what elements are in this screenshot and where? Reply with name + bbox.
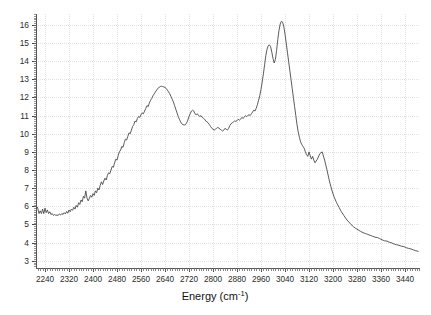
y-tick-label: 14 [20,56,30,66]
y-tick-label: 12 [20,92,30,102]
x-tick-label: 2720 [180,275,199,284]
x-tick-label: 3280 [348,275,367,284]
x-tick-label: 2400 [84,275,103,284]
y-tick-label: 10 [20,129,30,139]
x-tick-label: 2240 [36,275,55,284]
x-tick-label: 2800 [204,275,223,284]
y-tick-label: 8 [24,165,29,175]
x-tick-label: 3200 [324,275,343,284]
x-tick-label: 3040 [276,275,295,284]
x-tick-label: 3120 [300,275,319,284]
y-tick-label: 9 [24,147,29,157]
x-tick-label: 2640 [156,275,175,284]
x-tick-label: 3440 [396,275,415,284]
chart-background [0,0,431,315]
x-tick-label: 2560 [132,275,151,284]
x-tick-label: 3360 [372,275,391,284]
y-tick-label: 4 [24,238,29,248]
y-tick-label: 13 [20,74,30,84]
x-tick-label: 2880 [228,275,247,284]
x-tick-label: 2480 [108,275,127,284]
y-tick-label: 6 [24,201,29,211]
x-tick-label: 2960 [252,275,271,284]
y-tick-label: 11 [20,111,29,121]
y-tick-label: 15 [20,38,30,48]
spectrum-figure: 2240232024002480256026402720280028802960… [0,0,431,315]
y-tick-label: 5 [24,219,29,229]
spectrum-chart: 2240232024002480256026402720280028802960… [0,0,431,315]
y-tick-label: 7 [24,183,29,193]
x-tick-label: 2320 [60,275,79,284]
y-tick-label: 16 [20,20,30,30]
y-tick-label: 3 [24,256,29,266]
